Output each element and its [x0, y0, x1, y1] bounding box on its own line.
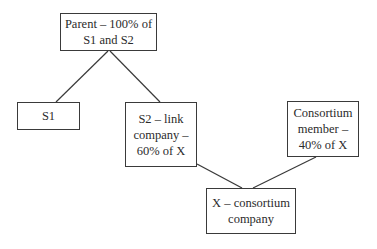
node-x-label: X – consortium company: [212, 195, 290, 227]
node-consortium-member-label: Consortium member – 40% of X: [293, 105, 352, 153]
node-s1: S1: [17, 102, 80, 130]
node-x-consortium-company: X – consortium company: [206, 188, 296, 234]
node-parent: Parent – 100% of S1 and S2: [60, 13, 157, 51]
node-parent-label: Parent – 100% of S1 and S2: [65, 16, 152, 48]
edge-parent-s1: [56, 51, 108, 102]
node-s1-label: S1: [42, 108, 55, 124]
node-consortium-member: Consortium member – 40% of X: [287, 101, 359, 157]
ownership-diagram: Parent – 100% of S1 and S2 S1 S2 – link …: [0, 0, 377, 249]
edge-parent-s2: [110, 51, 160, 102]
edge-s2-x: [197, 164, 242, 188]
node-s2-label: S2 – link company – 60% of X: [133, 111, 188, 159]
node-s2-link-company: S2 – link company – 60% of X: [125, 102, 197, 167]
edge-consortium-x: [253, 157, 316, 188]
